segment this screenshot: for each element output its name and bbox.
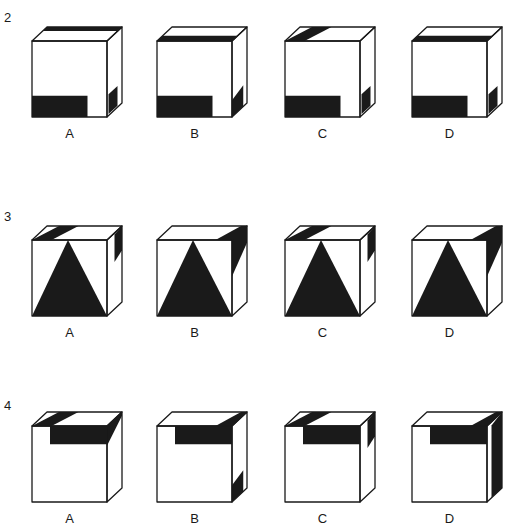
cube-icon [153,223,263,323]
cube-option-4-c[interactable] [281,409,391,509]
option-label: D [440,126,460,141]
option-label: A [60,325,80,340]
cube-icon [408,409,518,509]
cube-icon [153,409,263,509]
cube-icon [281,24,391,124]
cube-icon [281,223,391,323]
option-label: C [313,511,333,526]
cube-icon [153,24,263,124]
question-number-2: 2 [4,10,11,25]
option-label: C [313,325,333,340]
cube-option-4-b[interactable] [153,409,263,509]
cube-icon [28,24,138,124]
cube-icon [28,223,138,323]
cube-option-2-d[interactable] [408,24,518,124]
cube-icon [408,24,518,124]
cube-option-4-a[interactable] [28,409,138,509]
cube-option-3-c[interactable] [281,223,391,323]
cube-option-2-a[interactable] [28,24,138,124]
cube-icon [408,223,518,323]
cube-option-2-c[interactable] [281,24,391,124]
question-number-4: 4 [4,398,11,413]
option-label: D [440,325,460,340]
option-label: B [185,126,205,141]
option-label: D [440,511,460,526]
question-number-3: 3 [4,209,11,224]
cube-option-2-b[interactable] [153,24,263,124]
option-label: C [313,126,333,141]
cube-option-3-a[interactable] [28,223,138,323]
cube-option-3-b[interactable] [153,223,263,323]
cube-option-4-d[interactable] [408,409,518,509]
option-label: A [60,126,80,141]
option-label: B [185,325,205,340]
option-label: A [60,511,80,526]
cube-option-3-d[interactable] [408,223,518,323]
option-label: B [185,511,205,526]
cube-icon [281,409,391,509]
cube-icon [28,409,138,509]
